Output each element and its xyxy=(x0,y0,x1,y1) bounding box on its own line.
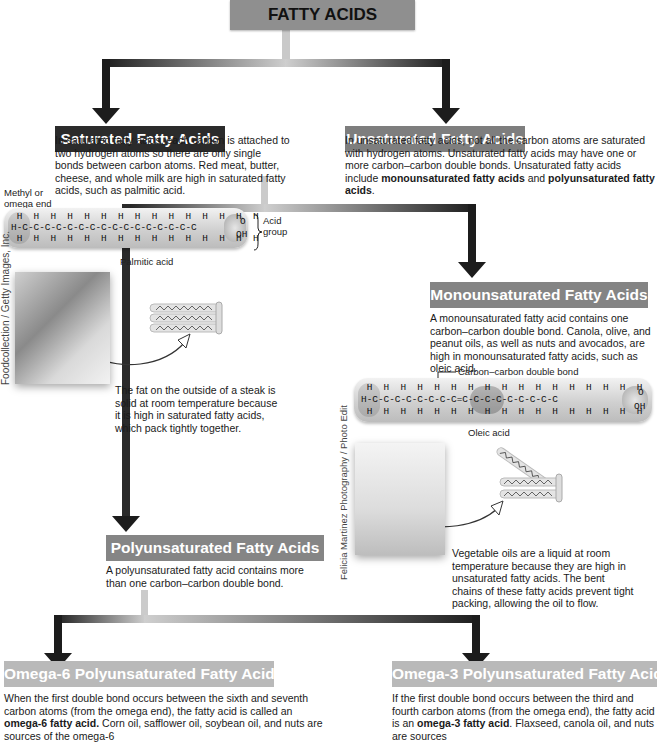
palmitic-acid-label: Palmitic acid xyxy=(120,256,173,267)
top-bar-right xyxy=(285,59,450,67)
double-bond-label: Carbon–carbon double bond xyxy=(458,366,578,377)
palmitic-acid-molecule: H H H H H H H H H H H H H H H H-C-C-C-C-… xyxy=(4,208,248,248)
top-bar-left xyxy=(102,59,287,67)
arrow-to-mono xyxy=(458,262,486,278)
unsat-bar-right xyxy=(264,204,476,212)
unsaturated-description: In unsaturated fatty acids, not all the … xyxy=(345,134,655,197)
omega6-description: When the first double bond occurs betwee… xyxy=(4,692,324,742)
acid-group-label: Acid group xyxy=(263,215,293,237)
monounsaturated-header: Monounsaturated Fatty Acids xyxy=(430,282,648,308)
steak-photo xyxy=(15,272,110,384)
oleic-acid-label: Oleic acid xyxy=(468,427,510,438)
oils-caption: Vegetable oils are a liquid at room temp… xyxy=(452,547,637,610)
arrow-to-poly xyxy=(112,516,140,532)
page-title: FATTY ACIDS xyxy=(230,0,415,30)
oils-photo-credit: Felicia Martinez Photography / Photo Edi… xyxy=(338,405,349,580)
omega3-header: Omega-3 Polyunsaturated Fatty Acids xyxy=(392,661,657,687)
polyunsaturated-header: Polyunsaturated Fatty Acids xyxy=(106,535,324,561)
steak-caption: The fat on the outside of a steak is sol… xyxy=(115,384,285,434)
saturated-description: In saturated fatty acids, each carbon is… xyxy=(55,134,290,197)
packed-saturated-chains xyxy=(150,302,222,334)
oils-photo xyxy=(355,443,445,555)
bent-unsaturated-chains xyxy=(495,446,562,502)
arrow-to-unsaturated xyxy=(432,108,460,124)
methyl-end-label: Methyl or omega end xyxy=(4,187,52,209)
omega6-header: Omega-6 Polyunsaturated Fatty Acids xyxy=(4,661,274,687)
oleic-acid-molecule: H H H H H H H H H H H H H H H H H H-C-C-… xyxy=(354,378,652,422)
poly-bar-right xyxy=(144,615,480,623)
omega3-description: If the first double bond occurs between … xyxy=(392,692,657,742)
top-stem xyxy=(282,30,290,64)
arrow-to-saturated xyxy=(92,108,120,124)
poly-bar-left xyxy=(54,615,146,623)
polyunsaturated-description: A polyunsaturated fatty acid contains mo… xyxy=(106,564,326,589)
steak-photo-credit: Foodcollection / Getty Images, Inc. xyxy=(0,231,11,385)
